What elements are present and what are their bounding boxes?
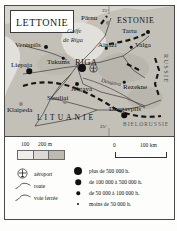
- altitude-tick-100: 100: [21, 141, 29, 147]
- country-label-bielorussie: BIELORUSSIE: [123, 122, 169, 128]
- country-label-russie: RUSSIE: [163, 54, 169, 84]
- railway-icon: [15, 193, 31, 202]
- water-label-de-riga: de Riga: [63, 37, 83, 44]
- altitude-swatch-2: [49, 151, 64, 159]
- city-label-valga: Valga: [135, 42, 151, 49]
- city-dot-parnu[interactable]: [106, 21, 110, 25]
- legend-label-pop-50k-100k: de 50 000 à 100 000 h.: [89, 190, 139, 196]
- water-label-golfe: Golfe: [67, 28, 81, 35]
- city-dot-valga[interactable]: [130, 46, 133, 49]
- altitude-swatch-0: [18, 151, 34, 159]
- legend-label-road: route: [34, 183, 45, 189]
- altitude-tick-200: 200 m: [38, 141, 52, 147]
- legend-label-pop-over-500k: plus de 500 000 h.: [89, 168, 130, 174]
- city-label-ventspils: Ventspils: [15, 42, 41, 49]
- city-dot-liepaja[interactable]: [26, 68, 32, 74]
- city-label-rezekne: Rezekne: [123, 84, 147, 91]
- altitude-scale-bar: [17, 150, 65, 160]
- legend-label-pop-under-50k: moins de 50 000 h.: [89, 201, 131, 207]
- road-icon: [15, 182, 31, 190]
- city-label-riga: RIGA: [75, 58, 97, 67]
- pop-dot-50k-100k: [76, 191, 80, 195]
- pop-dot-under-50k: [77, 203, 79, 205]
- map-canvas[interactable]: LETTONIE 25° 25° ESTONIE LITUANIE RUSSIE…: [4, 5, 175, 137]
- pop-dot-100k-500k: [75, 179, 81, 185]
- city-label-liepaja: Liepaja: [11, 62, 32, 69]
- map-title-box: LETTONIE: [10, 10, 74, 33]
- city-label-tartu: Tartu: [122, 28, 137, 35]
- pop-dot-over-500k: [74, 167, 82, 175]
- distance-scale-bar: [115, 152, 167, 158]
- legend-panel: 100 200 m 0 100 km aéroport route voie f…: [4, 137, 175, 220]
- distance-scale-end: 100 km: [140, 142, 157, 148]
- city-label-siauliai: Siauliai: [47, 95, 68, 102]
- city-label-tukums: Tukums: [47, 59, 70, 66]
- country-label-estonie: ESTONIE: [117, 17, 154, 25]
- city-dot-ventspils[interactable]: [44, 45, 48, 49]
- city-label-jelgava: Jelgava: [71, 86, 92, 93]
- country-label-lituanie: LITUANIE: [37, 114, 96, 122]
- figure-map-lettonie: LETTONIE 25° 25° ESTONIE LITUANIE RUSSIE…: [0, 0, 177, 231]
- altitude-swatch-1: [34, 151, 50, 159]
- city-label-klaipeda: Klaipeda: [7, 107, 32, 114]
- city-label-ainazi: Ainaži: [98, 42, 117, 49]
- coord-label-top: 25°: [102, 8, 109, 13]
- city-dot-daugavpils[interactable]: [121, 112, 127, 118]
- map-title: LETTONIE: [16, 17, 68, 28]
- airport-icon: [17, 168, 28, 179]
- legend-label-railway: voie ferrée: [34, 195, 58, 201]
- city-dot-tartu[interactable]: [146, 30, 150, 34]
- distance-scale-start: 0: [113, 142, 116, 148]
- legend-label-pop-100k-500k: de 100 000 à 500 000 h.: [89, 179, 142, 185]
- legend-label-airport: aéroport: [34, 171, 52, 177]
- city-label-parnu: Pärnu: [81, 15, 97, 22]
- city-label-daugavpils: Daugavpils: [109, 106, 141, 113]
- coord-label-bottom: 25°: [100, 124, 107, 129]
